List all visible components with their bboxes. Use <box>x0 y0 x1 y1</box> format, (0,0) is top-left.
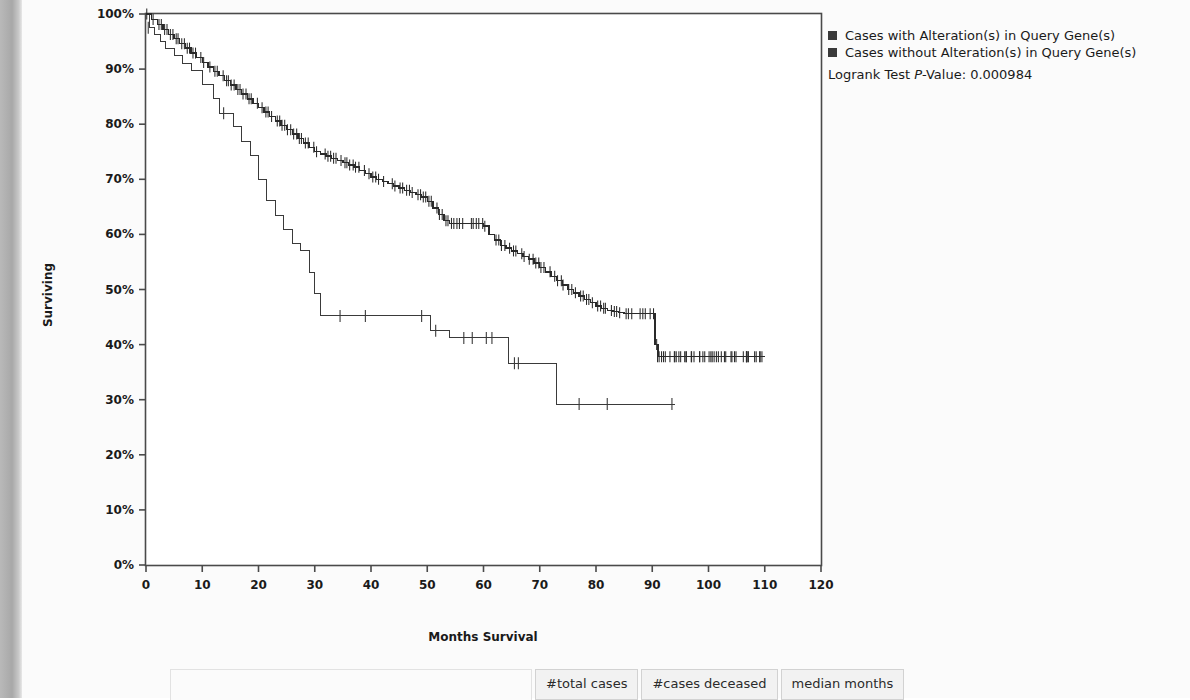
table-header-row: #total cases #cases deceased median mont… <box>170 669 904 700</box>
svg-text:50: 50 <box>419 578 436 592</box>
logrank-prefix: Logrank Test <box>828 67 914 82</box>
svg-text:70: 70 <box>531 578 548 592</box>
logrank-test-result: Logrank Test P-Value: 0.000984 <box>828 67 1178 82</box>
svg-text:110: 110 <box>752 578 777 592</box>
svg-text:100: 100 <box>696 578 721 592</box>
svg-text:120: 120 <box>808 578 833 592</box>
svg-text:60%: 60% <box>105 227 134 241</box>
svg-text:90: 90 <box>644 578 661 592</box>
svg-text:70%: 70% <box>105 172 134 186</box>
table-header-blank <box>170 669 532 700</box>
svg-text:90%: 90% <box>105 62 134 76</box>
y-axis-title: Surviving <box>41 263 55 327</box>
svg-text:30%: 30% <box>105 393 134 407</box>
logrank-p-symbol: P <box>914 67 922 82</box>
table-header-cases-deceased: #cases deceased <box>641 669 777 700</box>
square-swatch-icon <box>828 31 837 40</box>
svg-text:80: 80 <box>588 578 605 592</box>
legend-item-unaltered: Cases without Alteration(s) in Query Gen… <box>828 45 1178 60</box>
svg-text:60: 60 <box>475 578 492 592</box>
table-header-median-months: median months <box>781 669 905 700</box>
svg-text:50%: 50% <box>105 283 134 297</box>
chart-legend: Cases with Alteration(s) in Query Gene(s… <box>828 28 1178 82</box>
legend-item-altered: Cases with Alteration(s) in Query Gene(s… <box>828 28 1178 43</box>
svg-text:10%: 10% <box>105 503 134 517</box>
svg-text:100%: 100% <box>97 7 134 21</box>
survival-stats-table: #total cases #cases deceased median mont… <box>167 669 907 700</box>
svg-text:0%: 0% <box>114 558 134 572</box>
svg-text:30: 30 <box>306 578 323 592</box>
svg-text:20%: 20% <box>105 448 134 462</box>
legend-label-unaltered: Cases without Alteration(s) in Query Gen… <box>845 45 1136 60</box>
svg-text:20: 20 <box>250 578 267 592</box>
table-header-total-cases: #total cases <box>535 669 638 700</box>
svg-text:10: 10 <box>194 578 211 592</box>
svg-text:40: 40 <box>363 578 380 592</box>
legend-label-altered: Cases with Alteration(s) in Query Gene(s… <box>845 28 1115 43</box>
svg-text:80%: 80% <box>105 117 134 131</box>
x-axis-title: Months Survival <box>428 630 537 644</box>
square-swatch-icon <box>828 48 837 57</box>
svg-text:40%: 40% <box>105 338 134 352</box>
logrank-value: -Value: 0.000984 <box>922 67 1032 82</box>
y-axis-ticks: 0%10%20%30%40%50%60%70%80%90%100% <box>97 7 146 572</box>
x-axis-ticks: 0102030405060708090100110120 <box>142 565 834 592</box>
svg-text:0: 0 <box>142 578 150 592</box>
